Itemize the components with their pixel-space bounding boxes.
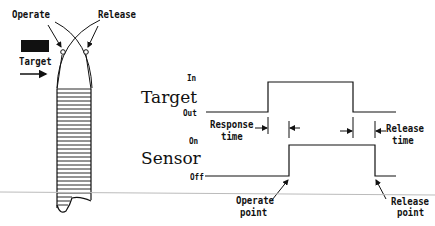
target-waveform (206, 82, 396, 112)
operate-point-marker (61, 50, 66, 55)
sensor-high-label: On (189, 137, 198, 146)
target-title: Target (141, 89, 197, 106)
operate-point-label-1: Operate (236, 195, 274, 206)
release-point-marker (84, 50, 89, 55)
sensor-title: Sensor (141, 150, 201, 167)
sensor-waveform (205, 145, 396, 176)
release-label: Release (98, 9, 136, 20)
release-time-label-2: time (392, 135, 414, 146)
target-label: Target (19, 56, 52, 67)
operate-point-label-2: point (240, 207, 267, 218)
operate-label: Operate (12, 9, 50, 20)
target-block (21, 40, 49, 52)
sensor-body (57, 89, 91, 212)
target-high-label: In (187, 74, 196, 83)
release-point-label-2: point (397, 207, 424, 218)
sensor-low-label: Off (190, 173, 204, 182)
response-time-label-2: time (221, 131, 243, 142)
target-low-label: Out (183, 109, 197, 118)
response-time-label-1: Response (210, 119, 253, 130)
timing-diagram-graphics (0, 0, 435, 226)
release-time-label-1: Release (386, 123, 424, 134)
page-baseline (0, 192, 435, 195)
